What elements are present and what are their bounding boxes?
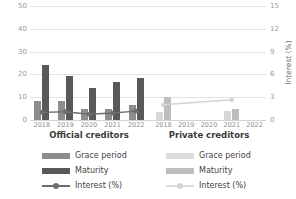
- legend-label-maturity-private: Maturity: [199, 166, 232, 175]
- bar-groups-official: [30, 6, 148, 120]
- caption-official-creditors: Official creditors: [30, 130, 148, 140]
- bar-official-grace-period-2019[interactable]: [58, 101, 65, 120]
- bars: [198, 6, 221, 120]
- x-axis-official: 20182019202020212022: [30, 121, 148, 129]
- bar-official-maturity-2019[interactable]: [66, 76, 73, 120]
- swatch-grace-official: [42, 153, 70, 159]
- panel-captions: Official creditors Private creditors: [30, 130, 266, 144]
- line-marker-interest-official: [42, 182, 70, 190]
- bar-group-official-2018: [30, 6, 54, 120]
- legend-column-official: Grace period Maturity Interest (%): [42, 148, 162, 193]
- bars: [30, 6, 54, 120]
- bar-group-official-2019: [54, 6, 78, 120]
- bar-private-grace-period-2018[interactable]: [156, 112, 163, 120]
- bar-official-grace-period-2020[interactable]: [81, 109, 88, 120]
- bar-official-grace-period-2018[interactable]: [34, 101, 41, 120]
- x-tick-official-2020: 2020: [77, 121, 101, 129]
- bars: [152, 6, 175, 120]
- bar-group-official-2020: [77, 6, 101, 120]
- bars: [175, 6, 198, 120]
- y-tick-right-9: 9: [270, 48, 274, 56]
- panel-official-creditors: 20182019202020212022: [30, 6, 148, 120]
- bar-official-grace-period-2022[interactable]: [129, 105, 136, 120]
- x-tick-official-2021: 2021: [101, 121, 125, 129]
- bar-group-private-2022: [243, 6, 266, 120]
- legend-item-maturity-official[interactable]: Maturity: [42, 163, 162, 178]
- line-marker-interest-private: [166, 182, 194, 190]
- legend-label-grace-official: Grace period: [75, 151, 127, 160]
- swatch-maturity-private: [166, 168, 194, 174]
- bars: [101, 6, 125, 120]
- bar-private-maturity-2018[interactable]: [164, 97, 171, 120]
- x-tick-private-2022: 2022: [243, 121, 266, 129]
- bar-group-private-2018: [152, 6, 175, 120]
- x-axis-private: 20182019202020212022: [152, 121, 266, 129]
- caption-private-creditors: Private creditors: [152, 130, 266, 140]
- legend-item-grace-private[interactable]: Grace period: [166, 148, 286, 163]
- panel-private-creditors: 20182019202020212022: [152, 6, 266, 120]
- y-tick-left-20: 20: [18, 70, 27, 78]
- legend-item-maturity-private[interactable]: Maturity: [166, 163, 286, 178]
- swatch-grace-private: [166, 153, 194, 159]
- bar-group-official-2022: [124, 6, 148, 120]
- legend-item-interest-official[interactable]: Interest (%): [42, 178, 162, 193]
- bar-groups-private: [152, 6, 266, 120]
- x-tick-private-2021: 2021: [220, 121, 243, 129]
- y-tick-right-15: 15: [270, 2, 279, 10]
- bars: [77, 6, 101, 120]
- y-tick-left-30: 30: [18, 48, 27, 56]
- legend-label-grace-private: Grace period: [199, 151, 251, 160]
- chart-legend: Grace period Maturity Interest (%) Grace…: [30, 148, 282, 196]
- y-tick-left-10: 10: [18, 93, 27, 101]
- y-tick-left-0: 0: [23, 116, 27, 124]
- legend-label-interest-official: Interest (%): [75, 181, 122, 190]
- y-axis-right-title: Interest (%): [284, 40, 293, 84]
- bar-official-maturity-2020[interactable]: [89, 88, 96, 120]
- y-tick-left-40: 40: [18, 25, 27, 33]
- legend-label-interest-private: Interest (%): [199, 181, 246, 190]
- x-tick-private-2019: 2019: [175, 121, 198, 129]
- y-tick-left-50: 50: [18, 2, 27, 10]
- x-tick-private-2018: 2018: [152, 121, 175, 129]
- bar-group-official-2021: [101, 6, 125, 120]
- bar-official-grace-period-2021[interactable]: [105, 109, 112, 120]
- y-axis-left: 50 40 30 20 10 0: [0, 6, 27, 120]
- y-tick-right-12: 12: [270, 25, 279, 33]
- bars: [220, 6, 243, 120]
- x-tick-private-2020: 2020: [198, 121, 221, 129]
- bar-private-maturity-2021[interactable]: [232, 109, 239, 120]
- y-tick-right-0: 0: [270, 116, 274, 124]
- chart-figure: 50 40 30 20 10 0 Years 15 12 9 6 3 0 Int…: [0, 0, 296, 199]
- x-tick-official-2022: 2022: [124, 121, 148, 129]
- bar-official-maturity-2022[interactable]: [137, 78, 144, 120]
- legend-label-maturity-official: Maturity: [75, 166, 108, 175]
- swatch-maturity-official: [42, 168, 70, 174]
- legend-column-private: Grace period Maturity Interest (%): [166, 148, 286, 193]
- bars: [54, 6, 78, 120]
- bar-group-private-2021: [220, 6, 243, 120]
- bar-group-private-2020: [198, 6, 221, 120]
- x-tick-official-2018: 2018: [30, 121, 54, 129]
- legend-item-interest-private[interactable]: Interest (%): [166, 178, 286, 193]
- bar-official-maturity-2021[interactable]: [113, 82, 120, 120]
- legend-item-grace-official[interactable]: Grace period: [42, 148, 162, 163]
- bar-private-grace-period-2021[interactable]: [224, 111, 231, 121]
- y-tick-right-6: 6: [270, 70, 274, 78]
- plot-area: 20182019202020212022 2018201920202021202…: [30, 6, 266, 120]
- x-tick-official-2019: 2019: [54, 121, 78, 129]
- bars: [243, 6, 266, 120]
- y-tick-right-3: 3: [270, 93, 274, 101]
- bar-group-private-2019: [175, 6, 198, 120]
- bars: [124, 6, 148, 120]
- bar-official-maturity-2018[interactable]: [42, 65, 49, 120]
